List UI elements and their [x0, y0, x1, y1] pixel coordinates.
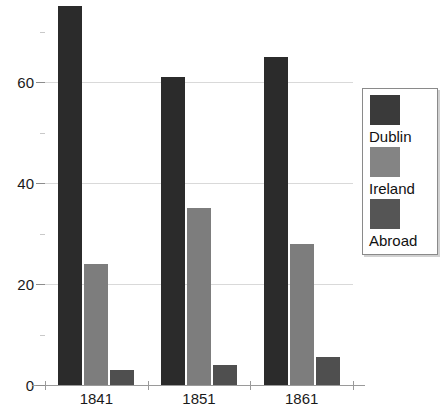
legend-swatch-dublin [370, 95, 400, 125]
chart-legend: DublinIrelandAbroad [362, 88, 438, 255]
bar-group [161, 5, 237, 385]
bar-ireland-1841 [84, 264, 108, 385]
y-tick-label-60: 60 [0, 74, 34, 91]
x-tick [353, 381, 354, 390]
y-tick-40 [36, 183, 45, 184]
bar-dublin-1851 [161, 77, 185, 385]
y-tick-60 [36, 82, 45, 83]
y-minor-tick-50 [40, 133, 45, 134]
bar-chart: 0204060 DublinIrelandAbroad 184118511861 [0, 0, 445, 414]
y-axis-labels: 0204060 [0, 0, 34, 414]
x-tick [250, 381, 251, 390]
y-minor-tick-30 [40, 234, 45, 235]
x-axis-line [32, 385, 365, 386]
y-tick-label-20: 20 [0, 276, 34, 293]
y-tick-label-0: 0 [0, 377, 34, 394]
y-tick-20 [36, 284, 45, 285]
bar-dublin-1841 [58, 6, 82, 385]
y-tick-label-40: 40 [0, 175, 34, 192]
bar-ireland-1861 [290, 244, 314, 385]
x-tick-label-1841: 1841 [80, 390, 113, 407]
legend-swatch-ireland [370, 147, 400, 177]
bar-group [58, 5, 134, 385]
bar-abroad-1851 [213, 365, 237, 385]
x-tick [148, 381, 149, 390]
bar-abroad-1861 [316, 357, 340, 385]
y-tick-0 [36, 385, 45, 386]
legend-label-abroad: Abroad [369, 232, 417, 249]
y-minor-tick-70 [40, 32, 45, 33]
x-tick-label-1861: 1861 [285, 390, 318, 407]
bar-ireland-1851 [187, 208, 211, 385]
legend-swatch-abroad [370, 199, 400, 229]
bar-group [264, 5, 340, 385]
x-tick [45, 381, 46, 390]
bar-dublin-1861 [264, 57, 288, 385]
legend-label-ireland: Ireland [369, 180, 415, 197]
legend-label-dublin: Dublin [369, 128, 412, 145]
y-minor-tick-10 [40, 335, 45, 336]
x-tick-label-1851: 1851 [182, 390, 215, 407]
bar-abroad-1841 [110, 370, 134, 385]
